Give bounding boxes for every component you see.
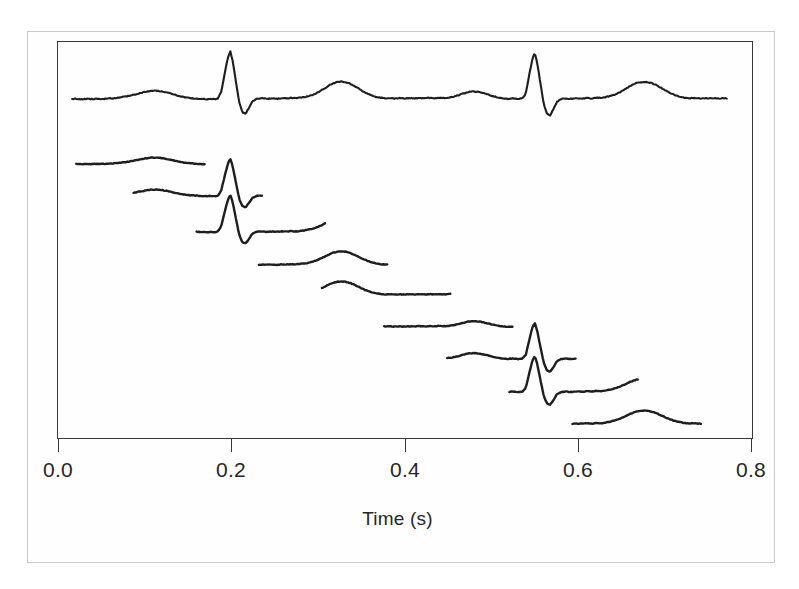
ecg-segment-2 [134,159,262,207]
ecg-segment-7 [447,323,575,371]
ecg-segment-3 [197,196,325,243]
ecg-full-trace [72,51,727,115]
ecg-segment-6 [384,321,512,327]
ecg-segment-8 [509,357,637,405]
ecg-segment-1 [76,157,204,164]
ecg-traces-group [72,51,727,424]
ecg-segment-5 [322,281,450,294]
figure-root: 0.0 0.2 0.4 0.6 0.8 Time (s) [0,0,799,589]
ecg-segment-4 [259,251,387,265]
ecg-plot-canvas [57,41,753,439]
ecg-segment-9 [572,411,700,424]
